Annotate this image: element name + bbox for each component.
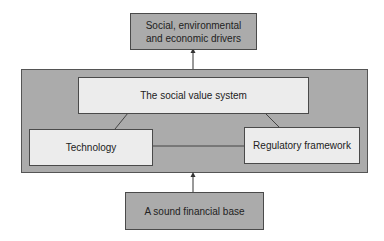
financial-base-label: A sound financial base	[144, 205, 244, 218]
financial-base-box: A sound financial base	[125, 192, 264, 230]
drivers-label-line1: Social, environmental	[146, 19, 242, 32]
social-value-system-label: The social value system	[140, 89, 247, 102]
arrow-up-icon	[191, 172, 196, 177]
social-value-system-box: The social value system	[78, 77, 309, 114]
technology-label: Technology	[66, 141, 117, 154]
regulatory-framework-label: Regulatory framework	[253, 139, 351, 152]
technology-box: Technology	[29, 129, 153, 166]
drivers-label-line2: and economic drivers	[146, 32, 241, 45]
drivers-box: Social, environmental and economic drive…	[130, 13, 257, 50]
regulatory-framework-box: Regulatory framework	[244, 127, 360, 164]
